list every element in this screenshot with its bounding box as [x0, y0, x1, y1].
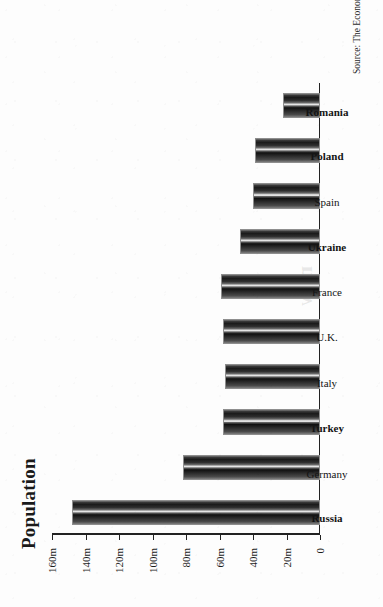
category-label: Spain — [314, 196, 339, 208]
bar-item: U.K. — [52, 319, 320, 344]
category-label: U.K. — [316, 332, 337, 344]
axis-tick-label: 60m — [214, 548, 226, 568]
bar-item: Poland — [52, 138, 320, 163]
axis-tick-label: 20m — [281, 548, 293, 568]
bar — [72, 500, 320, 525]
chart-title: Population — [18, 458, 40, 549]
axis-tick-label: 100m — [147, 548, 159, 573]
bar-item: Turkey — [52, 409, 320, 434]
plot-area: 160m140m120m100m80m60m40m20m0 RussiaGerm… — [52, 83, 320, 535]
axis-tick-label: 0 — [314, 548, 326, 554]
axis-tick: 120m — [119, 535, 120, 540]
axis-tick-label: 40m — [247, 548, 259, 568]
category-label: Romania — [306, 106, 349, 118]
bar — [253, 183, 320, 208]
bar — [221, 274, 320, 299]
bar — [183, 455, 320, 480]
axis-tick: 20m — [287, 535, 288, 540]
category-label: Russia — [311, 512, 342, 524]
bar-item: Italy — [52, 364, 320, 389]
category-label: Ukraine — [308, 241, 347, 253]
axis-tick: 40m — [253, 535, 254, 540]
bar-item: Russia — [52, 500, 320, 525]
bar — [223, 319, 320, 344]
bar-item: Germany — [52, 455, 320, 480]
axis-tick-label: 140m — [80, 548, 92, 573]
scanned-page: Population new 160m140m120m100m80m60m40m… — [0, 0, 383, 607]
bar-chart: Population new 160m140m120m100m80m60m40m… — [0, 0, 383, 607]
axis-tick-label: 120m — [113, 548, 125, 573]
axis-tick-label: 80m — [180, 548, 192, 568]
axis-tick: 0 — [320, 535, 321, 540]
rotated-figure-container: Population new 160m140m120m100m80m60m40m… — [0, 0, 383, 607]
bar-item: Spain — [52, 183, 320, 208]
axis-tick: 100m — [153, 535, 154, 540]
bar-series: RussiaGermanyTurkeyItalyU.K.FranceUkrain… — [52, 83, 320, 535]
category-label: Italy — [317, 377, 337, 389]
bar-item: Ukraine — [52, 229, 320, 254]
axis-tick: 140m — [86, 535, 87, 540]
category-label: Turkey — [310, 422, 344, 434]
bar-item: France — [52, 274, 320, 299]
bar — [225, 364, 320, 389]
category-label: Poland — [310, 151, 343, 163]
category-label: Germany — [307, 467, 348, 479]
axis-tick: 80m — [186, 535, 187, 540]
bar — [223, 409, 320, 434]
axis-tick-label: 160m — [46, 548, 58, 573]
bar-item: Romania — [52, 93, 320, 118]
category-label: France — [312, 286, 342, 298]
source-note: Source: The Economist — [352, 0, 362, 74]
axis-tick: 60m — [220, 535, 221, 540]
axis-tick: 160m — [52, 535, 53, 540]
